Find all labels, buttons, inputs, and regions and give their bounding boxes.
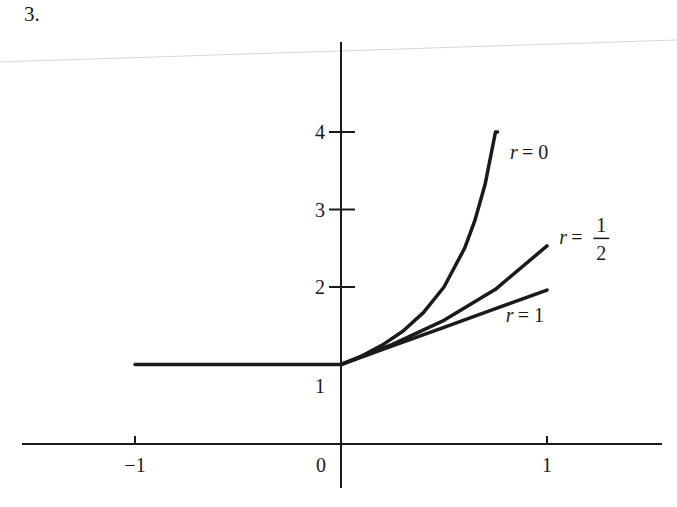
axes: −1011234 xyxy=(22,42,662,488)
y-tick-label: 4 xyxy=(315,121,325,143)
fraction-numerator: 1 xyxy=(596,214,606,236)
curve-r-0 xyxy=(341,132,498,365)
y-tick-label: 2 xyxy=(315,276,325,298)
y-tick-label: 1 xyxy=(315,375,325,397)
label-variable: r xyxy=(506,304,514,326)
y-tick-label: 3 xyxy=(315,199,325,221)
curve-r-1 xyxy=(341,290,547,364)
label-equals: = xyxy=(571,226,582,248)
x-tick-label: 0 xyxy=(316,454,326,476)
curve-label: r = 0 xyxy=(510,141,548,163)
curve-label: r =12 xyxy=(559,214,609,264)
label-variable: r xyxy=(559,226,567,248)
label-equals: = 0 xyxy=(522,141,548,163)
fraction-denominator: 2 xyxy=(596,242,606,264)
x-tick-label: −1 xyxy=(124,454,145,476)
curve-r-1-2 xyxy=(341,246,547,365)
label-equals: = 1 xyxy=(518,304,544,326)
label-variable: r xyxy=(510,141,518,163)
scan-artifact-line xyxy=(0,40,677,62)
x-tick-label: 1 xyxy=(542,454,552,476)
curve-label: r = 1 xyxy=(506,304,544,326)
figure: −1011234 r = 0r =12r = 1 xyxy=(0,0,677,507)
